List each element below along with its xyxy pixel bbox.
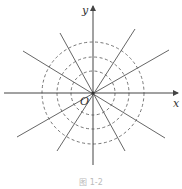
y-axis-label: y (82, 5, 88, 16)
x-axis-label: x (173, 98, 179, 109)
figure: y x O 图 1-2 (0, 0, 182, 189)
origin-label: O (80, 96, 89, 107)
figure-caption: 图 1-2 (0, 176, 182, 187)
diagram-canvas (0, 0, 182, 189)
axes (4, 6, 178, 165)
